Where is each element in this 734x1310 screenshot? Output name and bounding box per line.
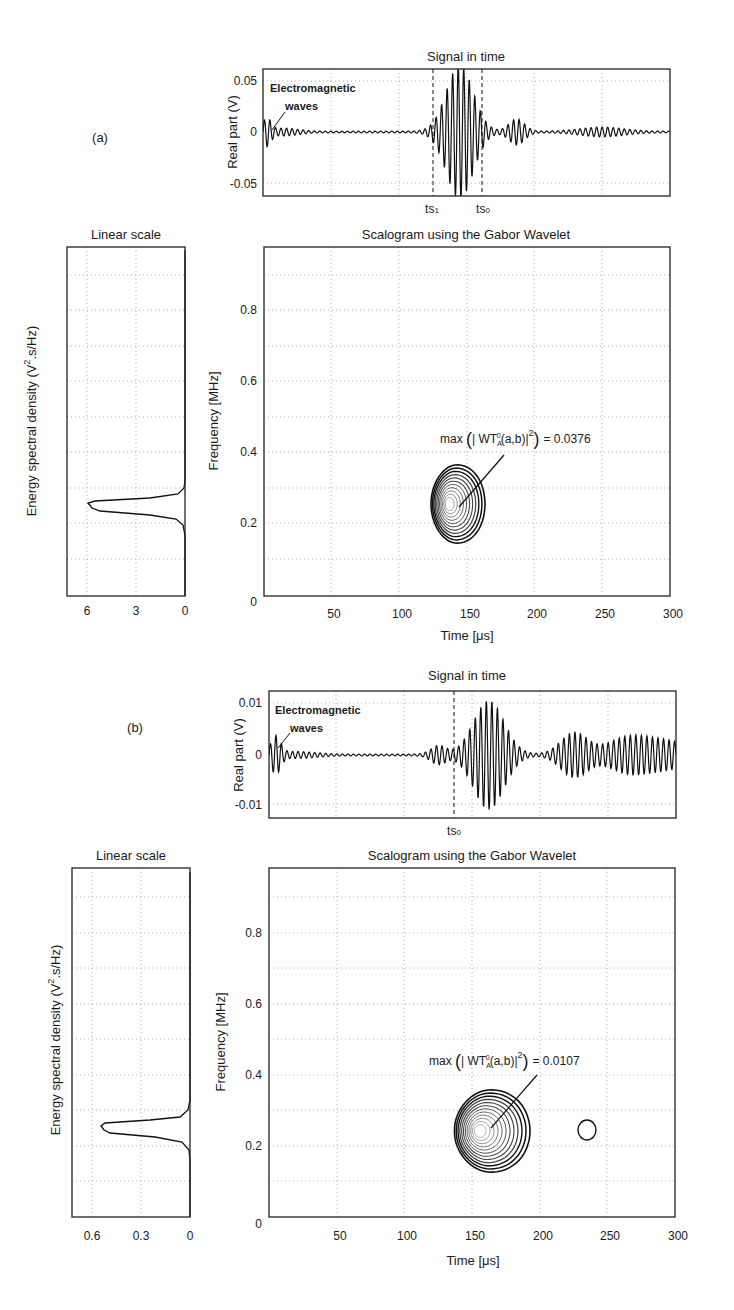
esd-title-a: Linear scale [91,227,161,242]
signal-title-b: Signal in time [428,668,506,683]
svg-text:200: 200 [533,1229,553,1243]
marker-ts0-a: ts0 [476,202,490,216]
esd-axes-a [67,247,185,596]
svg-text:0: 0 [255,1217,262,1231]
contours-b [454,1090,530,1172]
svg-text:100: 100 [392,607,412,621]
scalogram-xticks-b: 50 100 150 200 250 300 [333,1229,688,1243]
svg-text:0: 0 [187,1229,194,1243]
em-waves-label-b: Electromagnetic [275,704,361,716]
svg-text:0.4: 0.4 [240,445,257,459]
svg-text:-0.01: -0.01 [235,798,263,812]
esd-ylabel-b: Energy spectral density (V2.s/Hz) [46,945,63,1136]
esd-grid-b [72,868,190,1217]
contour-level [471,1118,494,1143]
svg-text:150: 150 [465,1229,485,1243]
max-annotation-b: max (| WTA0(a,b)|2)= 0.0107 [429,1050,580,1128]
scalogram-plot-b: Scalogram using the Gabor Wavelet Freque… [213,848,688,1268]
svg-text:-0.05: -0.05 [230,177,258,191]
em-waves-label-a: Electromagnetic [270,82,356,94]
em-waves-label2-a: waves [284,100,318,112]
contour-level [469,1115,498,1147]
svg-text:0.6: 0.6 [84,1229,101,1243]
contour-level [445,498,454,511]
svg-text:0.01: 0.01 [239,696,263,710]
esd-grid-a [67,247,185,596]
svg-text:0.8: 0.8 [240,303,257,317]
svg-text:0.6: 0.6 [240,374,257,388]
svg-text:3: 3 [133,604,140,618]
svg-text:100: 100 [397,1229,417,1243]
svg-text:0: 0 [182,604,189,618]
scalogram-grid-a [264,247,670,596]
scalogram-yticks-b: 0.8 0.6 0.4 0.2 0 [245,926,262,1231]
scalogram-grid-b [269,868,675,1217]
svg-text:max (| WTA0(a,b)|2)= 0.0376: max (| WTA0(a,b)|2)= 0.0376 [440,428,591,449]
esd-xticks-b: 0.6 0.3 0 [84,1229,194,1243]
contour-level [467,1112,502,1150]
svg-text:0.3: 0.3 [133,1229,150,1243]
svg-text:0.2: 0.2 [245,1139,262,1153]
scalogram-title-b: Scalogram using the Gabor Wavelet [368,848,577,863]
svg-text:0: 0 [250,125,257,139]
esd-title-b: Linear scale [96,848,166,863]
figure: (a) Signal in time Real part (V) 0.05 0 … [0,0,734,1310]
panel-a: (a) Signal in time Real part (V) 0.05 0 … [22,49,683,643]
em-waves-pointer-a [272,112,285,130]
panel-label-b: (b) [127,720,143,735]
scalogram-xlabel-b: Time [μs] [446,1253,499,1268]
svg-text:250: 250 [600,1229,620,1243]
contour-level [473,1122,490,1141]
svg-text:50: 50 [327,607,341,621]
svg-text:max (| WTA0(a,b)|2)= 0.0107: max (| WTA0(a,b)|2)= 0.0107 [429,1050,580,1071]
contour-level [444,494,458,514]
svg-text:50: 50 [333,1229,347,1243]
signal-plot-a: Signal in time Real part (V) 0.05 0 -0.0… [225,49,670,216]
svg-text:0: 0 [255,748,262,762]
svg-text:0.2: 0.2 [240,516,257,530]
esd-curve-b [101,872,190,1217]
esd-plot-b: Linear scale Energy spectral density (V2… [46,848,194,1243]
signal-title-a: Signal in time [427,49,505,64]
scalogram-ylabel-b: Frequency [MHz] [213,993,228,1092]
svg-text:0: 0 [250,595,257,609]
secondary-contour-b [578,1120,596,1140]
signal-ylabel-a: Real part (V) [225,95,240,169]
scalogram-plot-a: Scalogram using the Gabor Wavelet Freque… [206,227,683,643]
em-waves-label2-b: waves [289,722,323,734]
esd-plot-a: Linear scale Energy spectral density (V2… [22,227,189,618]
svg-text:300: 300 [663,607,683,621]
contour-level [456,1093,526,1169]
esd-curve-a [88,250,185,596]
marker-ts1: ts1 [425,202,439,216]
scalogram-xlabel-a: Time [μs] [440,628,493,643]
contour-level [474,1125,486,1138]
esd-axes-b [72,868,190,1217]
svg-text:200: 200 [527,607,547,621]
contours-a [431,465,485,543]
panel-b: (b) Signal in time Real part (V) 0.01 0 … [46,668,688,1268]
esd-xticks-a: 6 3 0 [84,604,189,618]
max-annotation-a: max (| WTA0(a,b)|2)= 0.0376 [440,428,591,507]
svg-text:0.05: 0.05 [234,74,258,88]
svg-text:250: 250 [595,607,615,621]
signal-plot-b: Signal in time Real part (V) 0.01 0 -0.0… [231,668,676,838]
em-waves-pointer-b [278,733,290,748]
svg-text:0.6: 0.6 [245,997,262,1011]
marker-ts0-b: ts0 [447,824,461,838]
scalogram-yticks-a: 0.8 0.6 0.4 0.2 0 [240,303,257,609]
signal-ylabel-b: Real part (V) [231,718,246,792]
svg-text:300: 300 [668,1229,688,1243]
esd-ylabel-a: Energy spectral density (V2.s/Hz) [22,326,39,517]
svg-text:0.4: 0.4 [245,1068,262,1082]
scalogram-title-a: Scalogram using the Gabor Wavelet [362,227,571,242]
scalogram-xticks-a: 50 100 150 200 250 300 [327,607,683,621]
svg-text:6: 6 [84,604,91,618]
panel-label-a: (a) [92,130,108,145]
svg-text:150: 150 [460,607,480,621]
signal-trace-b [269,701,676,809]
scalogram-ylabel-a: Frequency [MHz] [206,372,221,471]
svg-text:0.8: 0.8 [245,926,262,940]
